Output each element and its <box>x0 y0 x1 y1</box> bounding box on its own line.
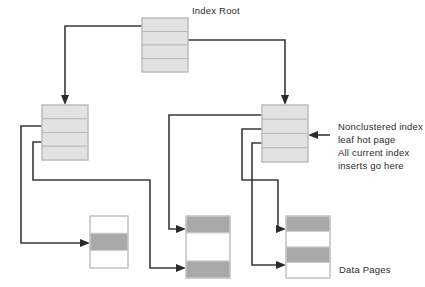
diagram-canvas: Index Root Nonclustered index leaf hot p… <box>0 0 425 287</box>
data-page-right-cell-1 <box>286 216 330 232</box>
index-root-label: Index Root <box>192 5 240 16</box>
arrowhead-left-leaf-to-middle-data-page <box>176 264 186 272</box>
arrowhead-left-leaf-to-left-data-page <box>80 239 90 247</box>
index-leaf-right-cell-2 <box>262 119 308 133</box>
arrowhead-right-leaf-to-right-data-page-bottom <box>276 261 286 269</box>
index-root-page[interactable] <box>142 18 188 72</box>
arrowhead-right-leaf-to-middle-data-page <box>176 225 186 233</box>
data-page-middle[interactable] <box>186 216 230 278</box>
data-page-middle-cell-3 <box>186 261 230 278</box>
data-page-right-cell-2 <box>286 232 330 248</box>
data-page-right-cell-3 <box>286 247 330 263</box>
index-leaf-right-page[interactable] <box>262 105 308 162</box>
data-page-middle-cell-1 <box>186 216 230 233</box>
arrowhead-annotation-pointer <box>308 131 318 139</box>
index-leaf-right-cell-1 <box>262 105 308 119</box>
index-leaf-left-cell-1 <box>42 105 88 119</box>
index-structure-diagram: Index Root Nonclustered index leaf hot p… <box>0 0 425 287</box>
connector-right-leaf-to-middle-data-page <box>169 115 262 229</box>
connector-root-to-left-leaf <box>65 26 142 97</box>
index-root-cell-1 <box>142 18 188 32</box>
index-root-cell-4 <box>142 59 188 73</box>
index-root-cell-3 <box>142 45 188 59</box>
connector-root-to-right-leaf <box>188 40 285 97</box>
data-page-left-cell-1 <box>90 216 128 233</box>
arrowhead-root-to-right-leaf <box>281 95 289 105</box>
data-page-left-cell-2 <box>90 233 128 250</box>
arrowhead-right-leaf-to-right-data-page-top <box>276 225 286 233</box>
arrowhead-root-to-left-leaf <box>61 95 69 105</box>
index-root-cell-2 <box>142 32 188 46</box>
index-leaf-left-cell-3 <box>42 133 88 147</box>
index-leaf-right-cell-3 <box>262 134 308 148</box>
data-page-left-cell-3 <box>90 251 128 268</box>
index-leaf-left-page[interactable] <box>42 105 88 160</box>
index-leaf-right-cell-4 <box>262 148 308 162</box>
data-pages-label: Data Pages <box>339 264 391 275</box>
annotation-line-4: inserts go here <box>338 160 404 171</box>
annotation-line-2: leaf hot page <box>338 134 396 145</box>
index-leaf-left-cell-4 <box>42 146 88 160</box>
annotation-line-1: Nonclustered index <box>338 121 423 132</box>
data-page-right-cell-4 <box>286 263 330 279</box>
data-page-right[interactable] <box>286 216 330 278</box>
annotation-line-3: All current index <box>338 147 410 158</box>
data-page-left[interactable] <box>90 216 128 268</box>
data-page-middle-cell-2 <box>186 233 230 261</box>
index-leaf-left-cell-2 <box>42 119 88 133</box>
